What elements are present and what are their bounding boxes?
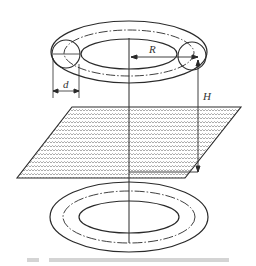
arrowhead-down-icon: [196, 166, 200, 172]
arrowhead-left-icon: [53, 89, 58, 93]
arrowhead-right-icon: [192, 55, 198, 59]
torus-over-plane-diagram: R d H: [0, 0, 256, 266]
arrowhead-right-icon: [74, 89, 79, 93]
radius-dimension: R: [131, 43, 198, 59]
label-H: H: [202, 90, 212, 102]
label-d: d: [63, 78, 69, 90]
label-R: R: [148, 43, 156, 55]
figure-caption: [27, 258, 229, 262]
arrowhead-left-icon: [131, 55, 137, 59]
arrowhead-top-icon: [196, 60, 200, 66]
